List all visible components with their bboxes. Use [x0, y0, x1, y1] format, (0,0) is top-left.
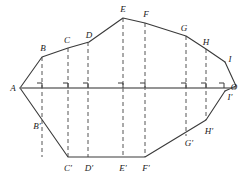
point-label-C-prime: C′: [64, 164, 72, 173]
point-label-F-prime: F′: [142, 164, 149, 173]
geometry-figure: ABCDEFGHIOI′B′C′D′E′F′G′H′: [0, 0, 239, 177]
point-label-H-prime: H′: [205, 127, 213, 136]
point-label-F: F: [143, 10, 149, 19]
point-label-D: D: [86, 31, 93, 40]
right-angle-mark-F: [140, 83, 145, 88]
point-label-A: A: [10, 84, 16, 93]
point-label-E-prime: E′: [119, 164, 126, 173]
right-angle-mark-C: [63, 83, 68, 88]
right-angle-mark-E: [118, 83, 123, 88]
right-angle-mark-I: [219, 83, 224, 88]
point-label-H: H: [203, 38, 210, 47]
point-label-C: C: [64, 36, 70, 45]
point-label-B: B: [40, 44, 46, 53]
point-label-B-prime: B′: [33, 122, 40, 131]
right-angle-mark-D: [83, 83, 88, 88]
point-label-E: E: [120, 5, 126, 14]
point-label-I: I: [229, 55, 232, 64]
point-label-G-prime: G′: [185, 139, 193, 148]
right-angle-mark-G: [181, 83, 186, 88]
point-label-G: G: [181, 24, 188, 33]
point-label-O: O: [231, 83, 238, 92]
right-angle-mark-B: [37, 83, 42, 88]
point-label-D-prime: D′: [85, 164, 93, 173]
right-angle-mark-H: [201, 83, 206, 88]
diagram-canvas: [0, 0, 239, 177]
right-angle-marks-group: [37, 83, 224, 88]
point-label-I-prime: I′: [228, 93, 233, 102]
